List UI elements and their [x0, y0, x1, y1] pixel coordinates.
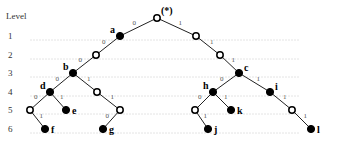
edge-label-0: 0	[106, 112, 110, 120]
edge-label-1: 1	[210, 38, 214, 46]
edge-i-i1	[270, 92, 292, 110]
filled-node-icon-h	[209, 88, 216, 95]
edge-label-0: 0	[133, 19, 137, 27]
level-label-1: 1	[8, 31, 13, 41]
node-label-k: k	[237, 105, 243, 116]
edge-c-i	[239, 73, 270, 92]
edge-label-0: 0	[220, 75, 224, 83]
edge-root-r1	[157, 18, 196, 36]
tree-nodes	[27, 15, 315, 133]
binary-trie-diagram: Level 123456 01010101010110111011 (*)abc…	[0, 0, 337, 142]
filled-node-icon-d	[46, 88, 53, 95]
open-node-icon	[289, 107, 295, 113]
edge-label-0: 0	[198, 93, 202, 101]
filled-node-icon-i	[266, 88, 273, 95]
filled-node-icon-g	[99, 125, 106, 132]
edge-label-0: 0	[79, 56, 83, 64]
node-label-h: h	[203, 80, 209, 91]
edge-label-1: 1	[204, 112, 208, 120]
filled-node-icon-j	[204, 125, 211, 132]
edge-b-b1	[73, 73, 97, 92]
filled-node-icon-c	[235, 69, 242, 76]
edge-label-1: 1	[111, 93, 115, 101]
filled-node-icon-f	[41, 125, 48, 132]
node-label-i: i	[275, 81, 278, 92]
edge-b-d	[50, 73, 73, 92]
filled-node-icon-b	[69, 69, 76, 76]
filled-node-icon-e	[62, 106, 69, 113]
open-node-icon	[193, 33, 199, 39]
open-node-icon	[94, 89, 100, 95]
edge-label-1: 1	[40, 112, 44, 120]
edge-l2-b	[73, 55, 96, 73]
level-labels: 123456	[8, 31, 13, 134]
edge-label-0: 0	[56, 75, 60, 83]
open-node-icon	[93, 52, 99, 58]
level-label-4: 4	[8, 87, 13, 97]
node-label-root: (*)	[161, 5, 173, 17]
node-label-e: e	[72, 105, 77, 116]
edge-label-0: 0	[102, 38, 106, 46]
edge-b1-b11	[97, 92, 120, 110]
level-label-2: 2	[8, 50, 13, 60]
open-node-icon	[117, 107, 123, 113]
edge-root-a	[120, 18, 157, 36]
level-label-3: 3	[8, 68, 13, 78]
edge-label-1: 1	[179, 19, 183, 27]
level-axis-title: Level	[6, 11, 27, 21]
open-node-icon	[192, 107, 198, 113]
open-node-icon-(*)	[154, 15, 160, 21]
node-label-l: l	[317, 124, 320, 135]
edge-label-1: 1	[87, 75, 91, 83]
edge-r1-r2	[196, 36, 220, 55]
open-node-icon	[217, 52, 223, 58]
level-gridlines	[30, 40, 300, 133]
edge-label-1: 1	[304, 112, 308, 120]
node-label-b: b	[63, 61, 69, 72]
node-label-j: j	[213, 124, 217, 135]
filled-node-icon-k	[227, 106, 234, 113]
node-label-d: d	[40, 80, 46, 91]
filled-node-icon-l	[307, 125, 314, 132]
edge-label-1: 1	[257, 75, 261, 83]
node-label-g: g	[109, 124, 114, 135]
edge-c-h	[213, 73, 239, 92]
edge-a-l2	[96, 36, 120, 55]
level-label-6: 6	[8, 124, 13, 134]
level-label-5: 5	[8, 105, 13, 115]
open-node-icon	[27, 107, 33, 113]
edge-label-1: 1	[224, 93, 228, 101]
node-label-a: a	[110, 24, 115, 35]
edge-label-0: 0	[34, 93, 38, 101]
edge-label-1: 1	[60, 93, 64, 101]
edge-label-1: 1	[232, 56, 236, 64]
filled-node-icon-a	[116, 32, 123, 39]
edge-label-1: 1	[283, 93, 287, 101]
node-label-c: c	[244, 62, 249, 73]
